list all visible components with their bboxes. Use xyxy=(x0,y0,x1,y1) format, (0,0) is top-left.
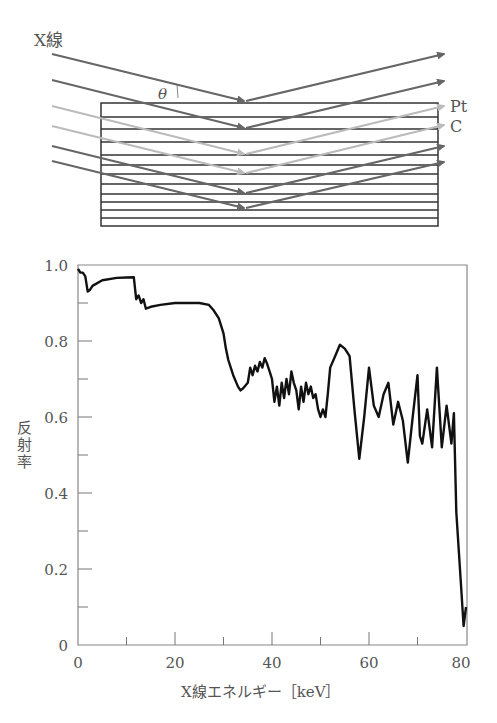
reflectivity-chart: 0 0.2 0.4 0.6 0.8 1.0 反射率 0 20 40 60 80 … xyxy=(14,257,471,701)
x-tick-label: 20 xyxy=(165,654,184,672)
figure: X線 θ xyxy=(0,0,497,723)
x-tick-label: 80 xyxy=(451,654,470,672)
theta-label: θ xyxy=(158,85,167,103)
y-tick-label: 0.4 xyxy=(44,485,68,503)
x-tick-label: 40 xyxy=(262,654,281,672)
pt-label: Pt xyxy=(450,97,468,116)
x-tick-label: 60 xyxy=(359,654,378,672)
reflectivity-curve xyxy=(78,269,466,626)
y-tick-label: 0.6 xyxy=(44,409,68,427)
y-tick-label: 0.8 xyxy=(44,333,68,351)
angle-arc xyxy=(177,84,178,98)
x-axis-label: X線エネルギー［keV］ xyxy=(181,683,340,701)
multilayer-diagram: X線 θ xyxy=(34,30,468,226)
x-axis: 0 20 40 60 80 xyxy=(73,632,470,672)
incident-label: X線 xyxy=(34,30,63,50)
c-label: C xyxy=(450,117,462,136)
x-tick-label: 0 xyxy=(73,654,83,672)
y-tick-label: 0.2 xyxy=(44,561,68,579)
y-axis-label: 反射率 xyxy=(14,420,32,471)
y-tick-label: 1.0 xyxy=(44,257,68,275)
y-axis: 0 0.2 0.4 0.6 0.8 1.0 xyxy=(44,257,92,655)
y-tick-label: 0 xyxy=(58,637,68,655)
